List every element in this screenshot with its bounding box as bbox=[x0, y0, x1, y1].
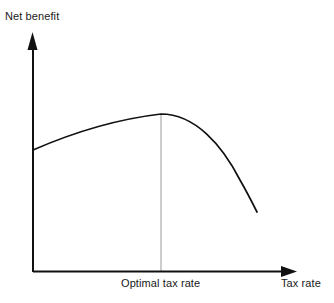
net-benefit-curve bbox=[33, 114, 257, 212]
y-axis-label: Net benefit bbox=[5, 10, 59, 23]
arrow-up-icon bbox=[28, 32, 38, 50]
optimal-tax-rate-label: Optimal tax rate bbox=[121, 277, 200, 290]
arrow-right-icon bbox=[281, 266, 297, 277]
chart-canvas bbox=[0, 0, 334, 303]
x-axis-label: Tax rate bbox=[281, 277, 321, 290]
chart-container: Net benefit Tax rate Optimal tax rate bbox=[0, 0, 334, 303]
